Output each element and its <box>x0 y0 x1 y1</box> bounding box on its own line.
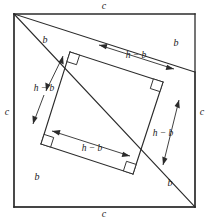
outer-side-label-top: c <box>102 0 107 11</box>
segment-label-bottom-left: b <box>35 171 40 182</box>
outer-side-label-right: c <box>200 106 205 117</box>
inner-square-edge-left <box>41 52 70 144</box>
dimension-arrowhead-bottom-left <box>52 130 61 135</box>
dimension-arrows <box>32 44 179 165</box>
segment-label-bottom-right: b <box>168 177 173 188</box>
figure-canvas: c c c c b b b b h − b h − b h − b h − b <box>0 0 209 221</box>
dimension-label-right: h − b <box>153 128 174 138</box>
dimension-arrowhead-right-bottom <box>162 157 167 166</box>
right-angle-marks <box>41 52 163 174</box>
segment-label-top-right: b <box>174 37 179 48</box>
segment-label-top-left: b <box>43 34 48 45</box>
dimension-arrowhead-left-lower <box>32 116 37 125</box>
dimension-arrowhead-top-left <box>99 44 108 49</box>
dimension-label-bottom: h − b <box>82 143 103 153</box>
dimension-arrowhead-right-top <box>175 100 180 109</box>
dimension-label-left: h − b <box>34 83 55 93</box>
outer-side-label-left: c <box>5 106 10 117</box>
inner-square <box>41 52 163 174</box>
geometry-figure: c c c c b b b b h − b h − b h − b h − b <box>0 0 209 221</box>
outer-side-label-bottom: c <box>102 208 107 219</box>
dimension-label-top: h − b <box>126 50 147 60</box>
dimension-arrowhead-top-right <box>166 65 174 70</box>
dimension-arrowhead-bottom-right <box>122 152 130 157</box>
inner-square-edge-top <box>70 52 163 82</box>
